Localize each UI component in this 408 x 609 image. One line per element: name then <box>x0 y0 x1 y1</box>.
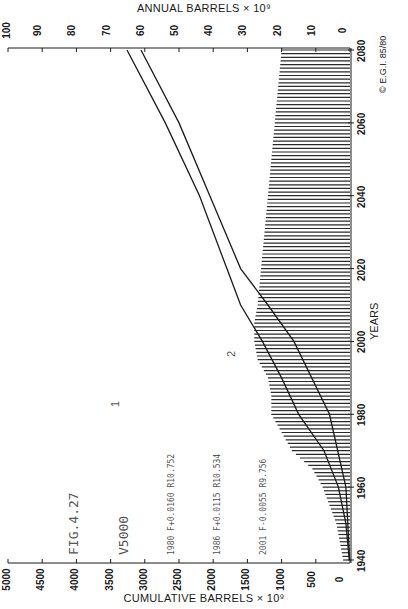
cumulative-tick-label: 4500 <box>35 568 46 590</box>
annotation-line-3: 2001 F-0.0055 R9.756 <box>260 454 268 555</box>
cumulative-tick-label: 0 <box>334 577 345 583</box>
annual-tick-label: 30 <box>237 25 248 36</box>
annual-tick-label: 0 <box>337 28 348 34</box>
years-axis-title: YEARS <box>368 303 380 340</box>
cumulative-tick-label: 1000 <box>274 568 285 590</box>
version-label: V5000 <box>118 454 130 555</box>
annual-tick-label: 100 <box>1 22 12 39</box>
chart: ANNUAL BARRELS × 10⁹ CUMULATIVE BARRELS … <box>0 0 408 609</box>
year-tick-label: 2060 <box>356 113 367 135</box>
cumulative-tick-label: 5000 <box>1 568 12 590</box>
cumulative-tick-label: 2000 <box>206 568 217 590</box>
cumulative-tick-label: 3500 <box>103 568 114 590</box>
cumulative-tick-label: 1500 <box>240 568 251 590</box>
year-tick-label: 2040 <box>356 185 367 207</box>
figure-number: FIG.4.27 <box>68 454 80 555</box>
annual-tick-label: 20 <box>272 25 283 36</box>
year-tick-label: 2080 <box>356 40 367 62</box>
copyright-note: © E.G.I. 85/80 <box>378 36 388 93</box>
annual-tick-label: 40 <box>203 25 214 36</box>
annual-tick-label: 80 <box>66 25 77 36</box>
year-tick-label: 2000 <box>356 331 367 353</box>
annual-tick-label: 60 <box>135 25 146 36</box>
cumulative-tick-label: 3000 <box>137 568 148 590</box>
year-tick-label: 1980 <box>356 404 367 426</box>
curve-1-label: 1 <box>109 401 121 407</box>
year-tick-label: 1940 <box>356 550 367 572</box>
cumulative-tick-label: 500 <box>306 571 317 588</box>
annual-tick-label: 90 <box>32 25 43 36</box>
year-tick-label: 2020 <box>356 258 367 280</box>
annotation-line-1: 1980 F+0.0160 R10.752 <box>168 454 176 555</box>
annotation-line-2: 1986 F+0.0115 R10.534 <box>214 454 222 555</box>
year-tick-label: 1960 <box>356 477 367 499</box>
figure-annotation: FIG.4.27 V5000 1980 F+0.0160 R10.752 198… <box>30 454 306 555</box>
annual-tick-label: 70 <box>101 25 112 36</box>
annual-tick-label: 50 <box>169 25 180 36</box>
cumulative-tick-label: 4000 <box>69 568 80 590</box>
annual-tick-label: 10 <box>306 25 317 36</box>
cumulative-tick-label: 2500 <box>172 568 183 590</box>
curve-2-label: 2 <box>225 351 237 357</box>
